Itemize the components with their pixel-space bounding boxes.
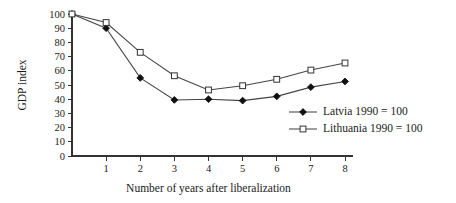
data-point-marker-square [240,83,246,89]
y-axis-tick-label: 50 [55,80,66,91]
data-point-marker-diamond [137,75,144,82]
data-point-marker-square [342,60,348,66]
gdp-index-line-chart: 0102030405060708090100 12345678 Latvia 1… [0,0,456,203]
data-point-marker-diamond [342,78,349,85]
data-point-marker-diamond [239,97,246,104]
series-polyline [72,14,345,90]
data-point-marker-square [103,20,109,26]
y-axis-tick-label: 90 [55,23,66,34]
data-point-marker-square [308,67,314,73]
legend-label: Lithuania 1990 = 100 [323,122,423,134]
data-point-marker-square [300,126,306,132]
data-point-marker-diamond [300,109,307,116]
data-point-marker-diamond [307,84,314,91]
x-axis-tick-label: 5 [240,163,245,174]
data-point-marker-diamond [205,96,212,103]
x-axis-tick-label: 7 [308,163,313,174]
y-axis-tick-label: 70 [55,51,66,62]
x-axis-tick-label: 8 [342,163,347,174]
y-axis-tick-label: 20 [55,122,66,133]
y-axis-tick-label: 80 [55,37,66,48]
x-axis-title: Number of years after liberalization [126,182,291,195]
legend-item-2: Lithuania 1990 = 100 [289,122,423,134]
series-layer [69,11,349,104]
y-axis: 0102030405060708090100 [49,9,72,162]
y-axis-tick-label: 0 [60,151,65,162]
data-point-marker-square [171,73,177,79]
y-axis-title: GDP index [16,59,28,110]
y-axis-tick-label: 30 [55,108,66,119]
legend-label: Latvia 1990 = 100 [323,105,408,117]
chart-figure: 0102030405060708090100 12345678 Latvia 1… [0,0,456,203]
series-2 [69,11,348,93]
x-axis-tick-label: 6 [274,163,279,174]
chart-legend: Latvia 1990 = 100Lithuania 1990 = 100 [289,105,423,134]
data-point-marker-square [137,49,143,55]
data-point-marker-diamond [171,97,178,104]
data-point-marker-square [206,87,212,93]
data-point-marker-square [274,76,280,82]
y-axis-tick-label: 100 [49,9,65,20]
x-axis: 12345678 [72,156,353,174]
data-point-marker-square [69,11,75,17]
y-axis-tick-label: 10 [55,136,66,147]
x-axis-tick-label: 3 [172,163,177,174]
x-axis-tick-label: 4 [206,163,212,174]
x-axis-tick-label: 2 [138,163,143,174]
legend-item-1: Latvia 1990 = 100 [289,105,408,117]
y-axis-tick-label: 60 [55,65,66,76]
y-axis-tick-label: 40 [55,94,66,105]
data-point-marker-diamond [273,93,280,100]
x-axis-tick-label: 1 [104,163,109,174]
